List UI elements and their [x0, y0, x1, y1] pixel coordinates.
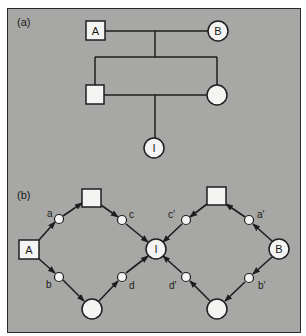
- edge-a-prime-to-right-square: [226, 204, 245, 217]
- edge-b-to-b-prime: [253, 257, 272, 274]
- panel-a-node-a: A: [86, 21, 105, 40]
- path-label-d: d: [129, 280, 135, 291]
- edge-a-to-a: [39, 222, 55, 240]
- path-label-c: c: [129, 209, 134, 220]
- path-label-d-prime: d′: [169, 280, 177, 291]
- path-label-a-prime: a′: [257, 209, 265, 220]
- path-label-c-prime: c′: [168, 209, 175, 220]
- path-label-b-prime: b′: [258, 280, 266, 291]
- path-node-a: [55, 215, 64, 224]
- edge-right-square-to-c-prime: [190, 204, 207, 217]
- svg-text:B: B: [275, 243, 282, 255]
- path-node-b: [55, 273, 64, 282]
- edge-b-to-left-circle: [63, 280, 84, 301]
- panel-b-node-b: B: [269, 239, 289, 259]
- edge-a-to-left-square: [63, 203, 82, 216]
- panel-b-node-right-circle: [207, 299, 227, 319]
- edge-left-square-to-c: [101, 205, 118, 217]
- panel-a-node-i: I: [144, 138, 164, 158]
- panel-b-node-right-square: [207, 187, 226, 205]
- svg-text:A: A: [92, 25, 100, 37]
- edge-b-to-a-prime: [253, 224, 272, 241]
- path-node-c-prime: [182, 216, 191, 225]
- panel-a-label: (a): [17, 16, 30, 28]
- panel-b-node-left-square: [82, 189, 101, 207]
- pedigree-diagram: (a) A B I (b): [0, 0, 306, 336]
- svg-text:B: B: [214, 25, 221, 37]
- edge-b-prime-to-right-circle: [225, 282, 245, 301]
- edge-c-prime-to-i: [163, 224, 182, 242]
- svg-text:I: I: [154, 243, 157, 255]
- svg-text:I: I: [152, 142, 155, 154]
- panel-a-node-son: [86, 85, 104, 104]
- edge-d-to-i: [126, 256, 148, 273]
- path-node-d: [118, 273, 127, 282]
- panel-b-label: (b): [17, 189, 30, 201]
- panel-b-node-a: A: [19, 240, 39, 259]
- path-node-d-prime: [182, 273, 191, 282]
- path-node-a-prime: [245, 216, 254, 225]
- edge-right-circle-to-d-prime: [190, 281, 210, 301]
- panel-b-node-i: I: [146, 239, 166, 259]
- edge-c-to-i: [126, 224, 148, 242]
- path-node-b-prime: [245, 274, 254, 283]
- panel-a-lines: [95, 31, 217, 138]
- path-label-a: a: [47, 208, 53, 219]
- path-node-c: [118, 216, 127, 225]
- path-label-b: b: [46, 279, 52, 290]
- panel-a-node-b: B: [208, 21, 228, 41]
- svg-text:A: A: [25, 244, 33, 256]
- edge-a-to-b: [39, 259, 55, 273]
- edge-left-circle-to-d: [99, 281, 118, 301]
- panel-a-node-daughter: [207, 85, 227, 105]
- edge-d-prime-to-i: [163, 256, 182, 273]
- panel-b-node-left-circle: [82, 299, 102, 319]
